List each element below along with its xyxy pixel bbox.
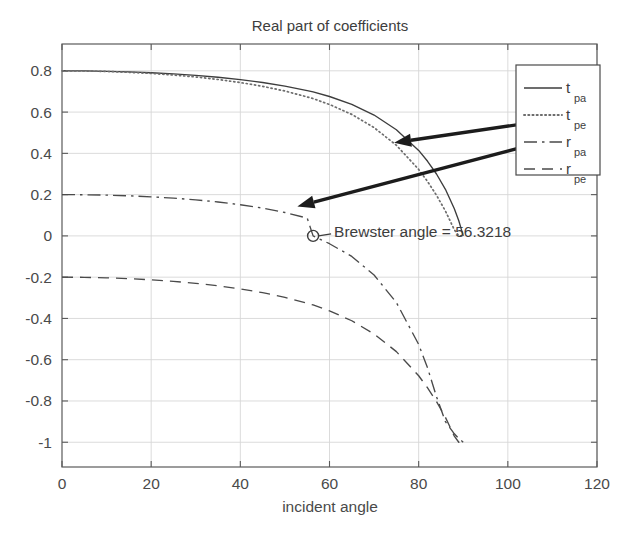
y-tick-label: -0.4 [25,310,52,327]
x-tick-label: 20 [143,475,161,492]
x-tick-label: 80 [410,475,428,492]
legend[interactable]: tpatperparpe [516,65,600,185]
y-tick-label: 0.6 [30,104,52,121]
chart-svg: Real part of coefficients 02040608010012… [0,0,641,540]
legend-sublabel-t_pe: pe [574,119,586,131]
y-tick-label: -0.2 [25,269,52,286]
y-tick-label: -0.8 [25,392,52,409]
y-tick-label: 0.8 [30,62,52,79]
legend-label-r_pe[interactable]: r [566,160,571,177]
legend-sublabel-t_pa: pa [574,92,587,104]
x-tick-label: 40 [232,475,250,492]
y-tick-label: -1 [38,434,52,451]
legend-sublabel-r_pa: pa [574,146,587,158]
x-tick-label: 120 [584,475,610,492]
brewster-angle-label: Brewster angle = 56.3218 [334,223,511,240]
x-tick-label: 0 [58,475,67,492]
x-tick-label: 60 [321,475,339,492]
x-axis-title: incident angle [282,498,378,515]
legend-box [516,65,600,175]
y-tick-label: -0.6 [25,351,52,368]
y-tick-label: 0.4 [30,145,52,162]
annotation-layer: Brewster angle = 56.3218 [308,223,512,242]
x-tick-label: 100 [495,475,521,492]
figure-canvas: Real part of coefficients 02040608010012… [0,0,641,540]
chart-title: Real part of coefficients [252,17,408,34]
legend-sublabel-r_pe: pe [574,173,586,185]
legend-label-r_pa[interactable]: r [566,133,571,150]
y-tick-label: 0.2 [30,186,52,203]
y-tick-label: 0 [43,227,52,244]
